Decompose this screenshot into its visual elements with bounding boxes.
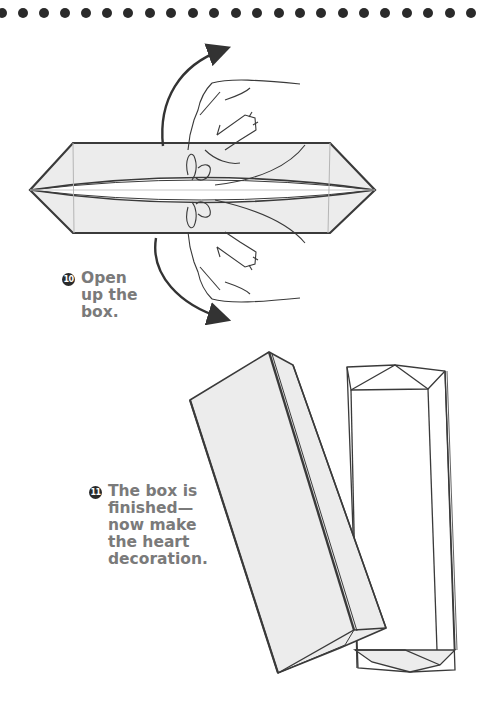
step-10-caption: 10 Open up the box.	[62, 270, 137, 321]
arrow-down-icon	[155, 238, 222, 318]
arrow-up-icon	[162, 50, 222, 146]
step-number-badge: 10	[62, 273, 75, 286]
origami-diagram	[0, 0, 477, 701]
flattened-box	[30, 143, 375, 233]
step-11-caption: 11 The box is finished— now make the hea…	[89, 483, 208, 568]
step-instruction: The box is finished— now make the heart …	[108, 483, 208, 568]
step-number-badge: 11	[89, 486, 102, 499]
step-instruction: Open up the box.	[81, 270, 137, 321]
